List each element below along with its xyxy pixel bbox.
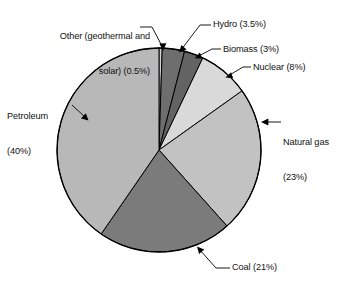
slice-label-natural-gas-line1: Natural gas xyxy=(283,137,341,149)
slice-label-petroleum: Petroleum (40%) xyxy=(7,88,69,180)
slice-label-hydro: Hydro (3.5%) xyxy=(213,19,266,31)
slice-label-coal: Coal (21%) xyxy=(232,262,277,274)
slice-label-petroleum-line2: (40%) xyxy=(7,146,69,158)
slice-label-petroleum-line1: Petroleum xyxy=(7,111,69,123)
leader-line-hydro xyxy=(181,25,211,50)
slice-label-biomass: Biomass (3%) xyxy=(223,44,279,56)
slice-label-natural-gas-line2: (23%) xyxy=(283,172,341,184)
slice-label-other-line2: solar) (0.5%) xyxy=(24,66,150,78)
arrowhead-natgas xyxy=(261,119,268,126)
slice-label-nuclear: Nuclear (8%) xyxy=(253,62,305,74)
pie-chart-figure: Other (geothermal and solar) (0.5%) Hydr… xyxy=(0,0,344,283)
slice-label-other-line1: Other (geothermal and xyxy=(24,31,150,43)
arrowhead-coal xyxy=(197,247,204,254)
leader-line-coal xyxy=(199,249,230,268)
slice-label-other: Other (geothermal and solar) (0.5%) xyxy=(24,8,150,100)
slice-label-natural-gas: Natural gas (23%) xyxy=(283,114,341,206)
